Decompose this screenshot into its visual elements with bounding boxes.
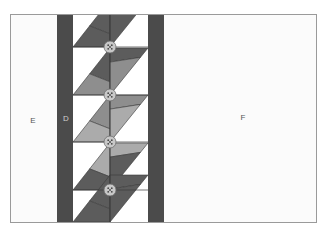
- sashing-column-right: [148, 15, 164, 222]
- button-icon: [104, 89, 116, 101]
- button-icon: [104, 41, 116, 53]
- label-f: F: [241, 113, 246, 122]
- quilt-diagram: [0, 0, 325, 231]
- patch-right-upper: [110, 0, 148, 14]
- button-icon: [104, 184, 116, 196]
- button-icon: [104, 136, 116, 148]
- label-d: D: [63, 114, 69, 123]
- label-e: E: [30, 116, 35, 125]
